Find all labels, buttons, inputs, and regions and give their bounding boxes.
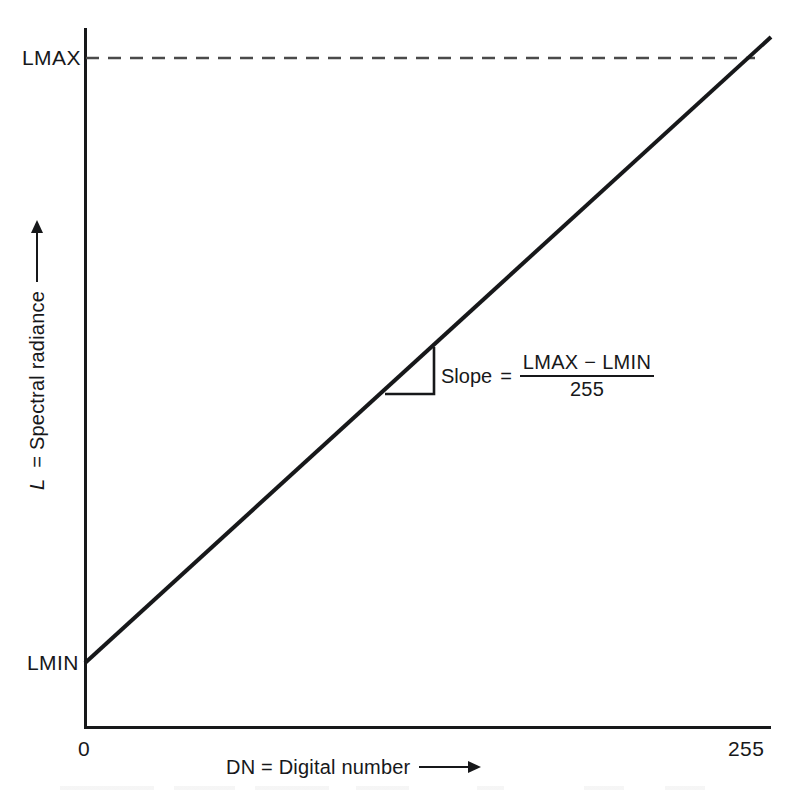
y-axis-title-symbol: L [27,477,47,490]
equals-sign: = [499,365,513,388]
x-axis-title-text: DN = Digital number [226,757,410,777]
slope-label: Slope [441,365,492,388]
x-tick-label-255: 255 [728,738,764,759]
arrow-up-icon [31,220,43,282]
y-tick-label-lmin: LMIN [27,652,79,673]
slope-triangle [385,347,434,394]
calibration-line [85,37,771,663]
y-axis-title: L = Spectral radiance [22,190,52,490]
radiometric-calibration-figure: LMAX LMIN 0 255 DN = Digital number L = … [0,0,792,795]
x-tick-label-0: 0 [78,738,90,759]
cropped-caption-sliver [60,786,732,790]
y-axis-title-text: = Spectral radiance [27,291,47,468]
slope-numerator: LMAX − LMIN [520,352,654,375]
slope-annotation: Slope = LMAX − LMIN 255 [441,352,654,400]
plot-area [0,0,792,795]
arrow-right-icon [419,761,481,773]
x-axis-title: DN = Digital number [226,757,481,777]
slope-fraction: LMAX − LMIN 255 [520,352,654,400]
slope-denominator: 255 [570,377,604,401]
y-tick-label-lmax: LMAX [22,47,81,68]
